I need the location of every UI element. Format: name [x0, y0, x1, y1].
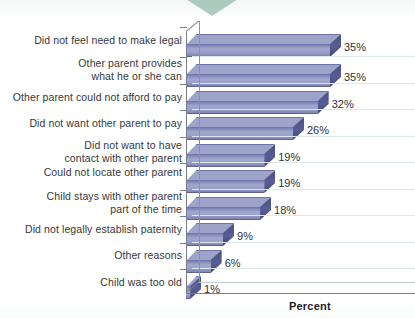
gridline: [192, 242, 415, 243]
bar: [186, 180, 264, 193]
bar: [186, 154, 264, 167]
category-label-line: Did not want to have: [0, 139, 182, 152]
bar-value-label: 35%: [344, 41, 366, 54]
category-axis-line: [186, 32, 187, 293]
x-axis-title: Percent: [289, 300, 331, 312]
category-label-line: Did not legally establish paternity: [0, 223, 182, 236]
category-label-line: Did not want other parent to pay: [0, 117, 182, 130]
bar: [186, 74, 330, 87]
bar-front-face: [186, 101, 318, 114]
category-label: Other parent could not afford to pay: [0, 91, 182, 104]
gridline: [192, 109, 415, 110]
bar-chart: 35%Did not feel need to make legal35%Oth…: [0, 0, 415, 318]
gridline: [192, 136, 415, 137]
category-label: Did not feel need to make legal: [0, 34, 182, 47]
category-label-line: Did not feel need to make legal: [0, 34, 182, 47]
gridline: [192, 215, 415, 216]
bar-front-face: [186, 233, 223, 246]
bar-front-face: [186, 154, 264, 167]
gridline: [192, 268, 415, 269]
category-label: Could not locate other parent: [0, 166, 182, 179]
category-label: Child was too old: [0, 276, 182, 289]
value-axis-line-back: [199, 282, 415, 283]
bar: [186, 101, 318, 114]
category-label-line: Child was too old: [0, 276, 182, 289]
category-label-line: contact with other parent: [0, 152, 182, 165]
bar-value-label: 1%: [204, 283, 220, 296]
bar: [186, 207, 260, 220]
gridline: [192, 83, 415, 84]
category-label-line: Other parent could not afford to pay: [0, 91, 182, 104]
bar-front-face: [186, 180, 264, 193]
bar-front-face: [186, 127, 293, 140]
bar-front-face: [186, 74, 330, 87]
category-label: Other parent provideswhat he or she can: [0, 57, 182, 82]
gridline: [192, 56, 415, 57]
axis-depth-top-edge: [186, 21, 200, 33]
category-label: Other reasons: [0, 249, 182, 262]
category-label-line: Other reasons: [0, 249, 182, 262]
bar: [186, 127, 293, 140]
plot-area: 35%Did not feel need to make legal35%Oth…: [0, 0, 415, 318]
category-label: Did not want other parent to pay: [0, 117, 182, 130]
value-axis-line: [186, 293, 415, 294]
bar-front-face: [186, 207, 260, 220]
gridline: [192, 162, 415, 163]
gridline: [192, 189, 415, 190]
category-label-line: part of the time: [0, 203, 182, 216]
category-label-line: what he or she can: [0, 70, 182, 83]
category-label-line: Other parent provides: [0, 57, 182, 70]
bar: [186, 233, 223, 246]
category-axis-line-back: [199, 21, 200, 282]
category-label-line: Could not locate other parent: [0, 166, 182, 179]
category-label: Child stays with other parentpart of the…: [0, 190, 182, 215]
category-label: Did not want to havecontact with other p…: [0, 139, 182, 164]
category-label: Did not legally establish paternity: [0, 223, 182, 236]
category-label-line: Child stays with other parent: [0, 190, 182, 203]
